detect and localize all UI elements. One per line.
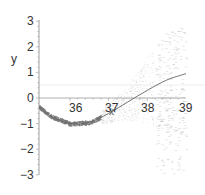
x-tick-label: 39: [179, 102, 192, 114]
x-tick-label: 38: [141, 102, 154, 114]
y-tick-label: −3: [20, 169, 34, 181]
y-tick-label: 0: [27, 92, 34, 104]
y-axis-ticks: [36, 21, 39, 175]
x-tick-label: 36: [69, 102, 82, 114]
y-tick-label: 3: [27, 15, 34, 27]
x-tick-label: 37: [105, 102, 118, 114]
y-axis-label: y: [11, 53, 17, 65]
y-tick-label: −1: [20, 118, 34, 130]
y-tick-label: −2: [20, 143, 34, 155]
y-tick-label: 2: [27, 41, 34, 53]
y-tick-label: 1: [27, 66, 34, 78]
